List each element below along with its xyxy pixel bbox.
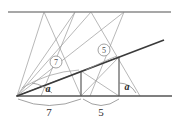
- angle-label-left: a: [46, 83, 51, 94]
- circled-label-seven: 7: [54, 58, 58, 67]
- geometry-figure: 7 5 a a 7 5: [0, 0, 179, 123]
- base-label-five: 5: [98, 106, 104, 118]
- base-label-seven: 7: [46, 106, 52, 118]
- angle-label-right: a: [125, 81, 130, 92]
- figure-background: [0, 0, 179, 123]
- circled-label-five: 5: [102, 46, 106, 55]
- diagram-canvas: 7 5 a a 7 5: [0, 0, 179, 123]
